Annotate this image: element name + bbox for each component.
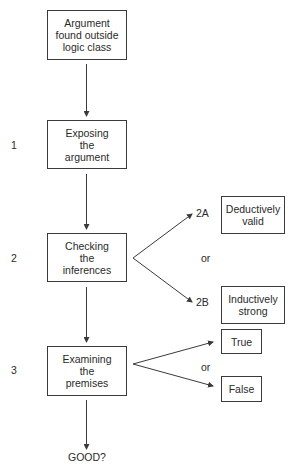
box-exposing-argument: Exposing the argument [47,120,127,169]
outcome-good: GOOD? [67,451,107,463]
or-separator-premises: or [201,361,210,373]
box-checking-inferences-text: Checking the inferences [63,240,111,276]
box-checking-inferences: Checking the inferences [47,233,127,282]
step-number-1: 1 [11,139,17,151]
arrow-to-2A [133,214,192,258]
box-true: True [221,329,262,354]
box-argument-found-text: Argument found outside logic class [55,17,118,53]
branch-label-2B: 2B [196,296,209,308]
box-inductively-strong: Inductively strong [221,286,285,324]
branch-label-2A: 2A [196,207,209,219]
step-number-2: 2 [11,252,17,264]
box-false: False [221,376,262,402]
box-examining-premises: Examining the premises [47,346,127,396]
box-true-text: True [231,336,252,348]
box-examining-premises-text: Examining the premises [62,353,111,389]
box-exposing-argument-text: Exposing the argument [65,127,109,163]
step-number-3: 3 [11,364,17,376]
box-deductively-valid-text: Deductively valid [226,203,280,227]
arrow-to-2B [133,258,192,302]
box-deductively-valid: Deductively valid [221,196,285,234]
box-false-text: False [229,383,255,395]
box-inductively-strong-text: Inductively strong [228,293,278,317]
box-argument-found: Argument found outside logic class [47,10,127,60]
or-separator-inferences: or [201,252,210,264]
